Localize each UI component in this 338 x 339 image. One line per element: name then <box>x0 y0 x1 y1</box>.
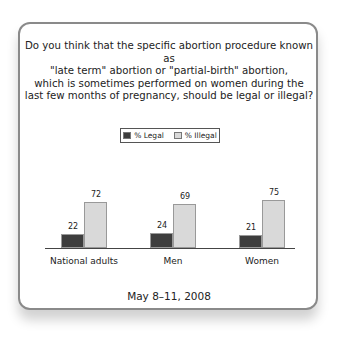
question-line: "late term" abortion or "partial-birth" … <box>20 65 318 78</box>
category-label: Men <box>128 256 218 266</box>
survey-date: May 8–11, 2008 <box>20 290 318 302</box>
category-label: National adults <box>39 256 129 266</box>
legend-label: % Illegal <box>185 131 217 140</box>
category-label: Women <box>217 256 307 266</box>
legend: % Legal % Illegal <box>120 128 220 143</box>
question-line: Do you think that the specific abortion … <box>20 40 318 65</box>
legal-swatch-icon <box>123 132 131 139</box>
question-line: which is sometimes performed on women du… <box>20 78 318 91</box>
bar-legal <box>61 234 84 248</box>
bar-value-label: 72 <box>84 190 108 199</box>
illegal-swatch-icon <box>174 132 182 139</box>
bar-illegal <box>262 200 285 248</box>
bar-illegal <box>173 204 196 248</box>
question-line: last few months of pregnancy, should be … <box>20 90 318 103</box>
bar-value-label: 75 <box>262 188 286 197</box>
bar-legal <box>150 233 173 248</box>
bar-value-label: 24 <box>150 221 174 230</box>
legend-label: % Legal <box>134 131 164 140</box>
legend-item-legal: % Legal <box>123 131 164 140</box>
bar-legal <box>239 235 262 248</box>
bar-value-label: 22 <box>61 222 85 231</box>
bar-value-label: 69 <box>173 192 197 201</box>
x-axis <box>45 248 295 249</box>
bar-value-label: 21 <box>239 223 263 232</box>
question-text: Do you think that the specific abortion … <box>20 40 318 103</box>
bar-illegal <box>84 202 107 248</box>
legend-item-illegal: % Illegal <box>174 131 217 140</box>
